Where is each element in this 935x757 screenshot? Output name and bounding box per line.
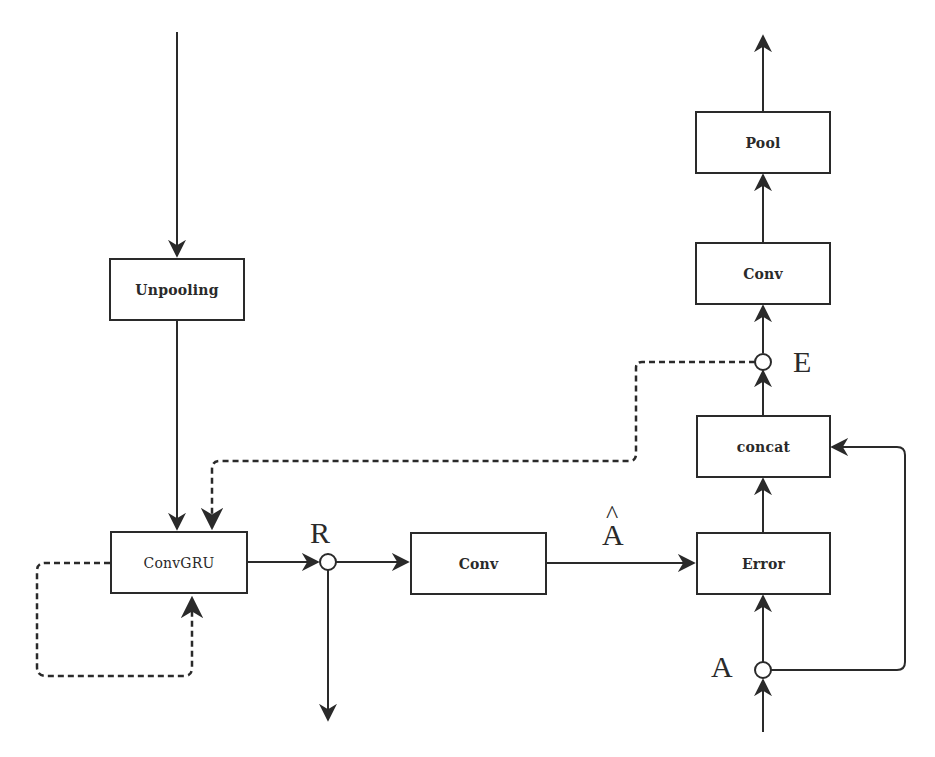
conv-mid-node: Conv — [410, 532, 547, 595]
label-a: A — [711, 652, 733, 682]
edge-e-to-convgru-dashed — [212, 362, 755, 528]
concat-label: concat — [737, 439, 790, 455]
junction-r — [320, 554, 336, 570]
pool-node: Pool — [695, 111, 831, 174]
convgru-node: ConvGRU — [110, 531, 248, 594]
pool-label: Pool — [746, 135, 781, 151]
junction-e — [755, 354, 771, 370]
unpooling-label: Unpooling — [135, 282, 218, 298]
unpooling-node: Unpooling — [109, 258, 245, 321]
error-node: Error — [696, 532, 831, 595]
junction-a — [755, 662, 771, 678]
label-e: E — [793, 347, 811, 377]
convgru-label: ConvGRU — [144, 555, 215, 571]
error-label: Error — [742, 556, 785, 572]
label-r: R — [310, 518, 330, 548]
label-a-hat: A — [602, 520, 624, 550]
conv-top-label: Conv — [743, 266, 783, 282]
conv-mid-label: Conv — [459, 556, 499, 572]
concat-node: concat — [696, 415, 831, 478]
conv-top-node: Conv — [695, 242, 831, 305]
